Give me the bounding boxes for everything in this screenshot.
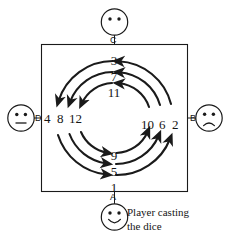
caption-line-1: Player casting [127, 206, 225, 220]
caption-line-2: the dice [127, 220, 225, 234]
number-10: 10 [141, 118, 154, 131]
number-6: 6 [159, 118, 166, 131]
number-1: 1 [101, 181, 127, 194]
player-a-caption: Player casting the dice [127, 206, 225, 234]
number-9: 9 [101, 149, 127, 162]
top-numbers: 3 7 11 [101, 54, 127, 99]
arc-outer-lower-left [58, 135, 107, 175]
number-11: 11 [101, 86, 127, 99]
player-label-b: B [190, 114, 196, 123]
number-3: 3 [101, 54, 127, 67]
number-5: 5 [101, 165, 127, 178]
number-2: 2 [172, 118, 179, 131]
number-4: 4 [44, 112, 51, 125]
diagram-stage: C D B A 3 7 11 9 5 1 4 8 12 10 6 2 Playe… [0, 0, 230, 240]
number-12: 12 [69, 112, 82, 125]
bottom-numbers: 9 5 1 [101, 149, 127, 194]
player-label-d: D [35, 114, 42, 123]
number-7: 7 [101, 70, 127, 83]
player-label-c: C [110, 36, 117, 45]
number-8: 8 [57, 112, 64, 125]
